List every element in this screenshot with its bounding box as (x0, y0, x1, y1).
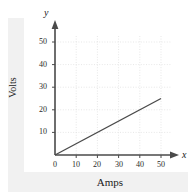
grid-horizontal (55, 42, 172, 132)
y-tick-label-40: 40 (33, 61, 47, 69)
y-axis-arrowhead (52, 20, 59, 29)
data-line-volts-vs-amps (55, 99, 161, 156)
x-axis-title: Amps (50, 176, 170, 188)
y-tick-label-50: 50 (33, 38, 47, 46)
x-tick-label-10: 10 (69, 161, 83, 169)
y-axis-title: Volts (7, 64, 18, 112)
x-tick-label-40: 40 (133, 161, 147, 169)
x-tick-label-20: 20 (90, 161, 104, 169)
y-axis-symbol: y (44, 8, 48, 18)
x-tick-label-50: 50 (154, 161, 168, 169)
y-tick-label-30: 30 (33, 83, 47, 91)
x-tick-label-0: 0 (48, 161, 62, 169)
x-tick-label-30: 30 (112, 161, 126, 169)
y-tick-label-10: 10 (33, 128, 47, 136)
x-axis (55, 152, 179, 159)
y-tick-label-20: 20 (33, 106, 47, 114)
x-axis-symbol: x (182, 150, 186, 160)
x-axis-arrowhead (170, 152, 179, 159)
voltage-current-graph-figure: y x 50 40 30 20 10 0 10 20 30 40 50 Volt… (0, 0, 196, 196)
